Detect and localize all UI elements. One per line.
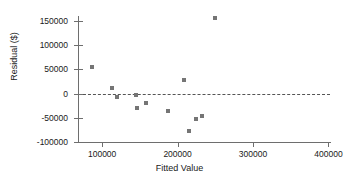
x-tick-label: 100000 bbox=[88, 150, 116, 159]
x-tick: 300000 bbox=[253, 142, 254, 147]
y-tick: -50000 bbox=[74, 118, 83, 119]
y-tick-label: 50000 bbox=[44, 65, 68, 74]
x-axis-line bbox=[78, 142, 331, 143]
y-tick-label: -100000 bbox=[37, 138, 68, 147]
x-axis-title: Fitted Value bbox=[0, 164, 359, 173]
data-point bbox=[194, 117, 198, 121]
data-point bbox=[90, 65, 94, 69]
data-point bbox=[115, 95, 119, 99]
x-tick: 100000 bbox=[102, 142, 103, 147]
y-tick: -100000 bbox=[74, 142, 83, 143]
x-tick: 200000 bbox=[178, 142, 179, 147]
data-point bbox=[182, 78, 186, 82]
y-tick: 50000 bbox=[74, 69, 83, 70]
y-tick-label: -50000 bbox=[42, 114, 68, 123]
data-point bbox=[144, 101, 148, 105]
y-tick: 0 bbox=[74, 94, 83, 95]
data-point bbox=[135, 106, 139, 110]
y-axis-title: Residual ($) bbox=[10, 7, 19, 107]
y-tick-label: 0 bbox=[63, 89, 68, 98]
y-tick: 100000 bbox=[74, 45, 83, 46]
residual-plot: 150000100000500000-50000-100000 10000020… bbox=[0, 0, 359, 188]
x-tick: 400000 bbox=[328, 142, 329, 147]
data-point bbox=[110, 86, 114, 90]
data-point bbox=[213, 16, 217, 20]
y-tick: 150000 bbox=[74, 21, 83, 22]
data-point bbox=[187, 129, 191, 133]
x-tick-label: 400000 bbox=[314, 150, 342, 159]
y-tick-label: 100000 bbox=[40, 41, 68, 50]
data-point bbox=[134, 93, 138, 97]
data-point bbox=[200, 114, 204, 118]
plot-area: 150000100000500000-50000-100000 10000020… bbox=[78, 16, 330, 142]
x-tick-label: 200000 bbox=[163, 150, 191, 159]
data-point bbox=[166, 109, 170, 113]
x-tick-label: 300000 bbox=[239, 150, 267, 159]
y-tick-label: 150000 bbox=[40, 17, 68, 26]
zero-reference-line bbox=[78, 94, 330, 95]
